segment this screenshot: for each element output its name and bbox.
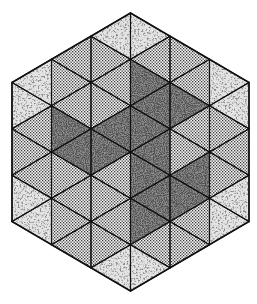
hexagon-triangle-tiling-figure [0,0,257,304]
hexagon-diagram [0,0,257,304]
